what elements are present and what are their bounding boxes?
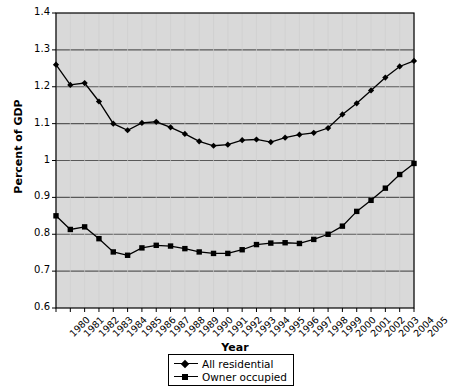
x-axis-title: Year: [55, 341, 415, 354]
legend-label-owner-occupied: Owner occupied: [199, 371, 287, 383]
legend-marker-square-icon: [173, 370, 199, 383]
legend-label-all-residential: All residential: [199, 358, 273, 370]
legend-item-all-residential: All residential: [173, 357, 287, 370]
legend-marker-diamond-icon: [173, 357, 199, 370]
y-axis-title: Percent of GDP: [12, 77, 25, 217]
legend-item-owner-occupied: Owner occupied: [173, 370, 287, 383]
chart-legend: All residential Owner occupied: [168, 354, 294, 386]
